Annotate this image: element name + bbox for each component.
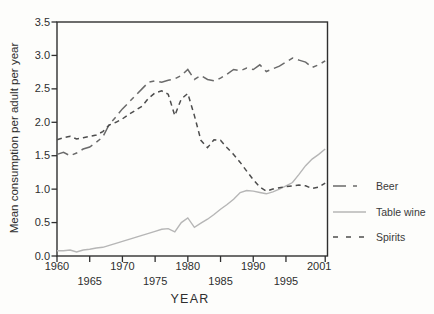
table-wine-line-sample-icon [332,206,368,218]
legend-label-table-wine: Table wine [376,206,426,218]
legend-label-spirits: Spirits [376,231,405,243]
y-tick-label: 2.0 [18,116,50,129]
x-tick-label: 1985 [201,275,241,288]
y-tick-label: 3.0 [18,49,50,62]
x-axis-title: YEAR [140,292,240,306]
y-axis-ticks [52,22,58,256]
y-tick-label: 2.5 [18,82,50,95]
plot-frame [57,22,328,256]
legend-item-spirits: Spirits [332,231,405,243]
spirits-line-sample-icon [332,231,368,243]
x-tick-label: 1990 [233,260,273,273]
y-tick-label: 1.0 [18,183,50,196]
series-line-table-wine [57,149,325,252]
y-axis-title: Mean consumption per adult per year [8,20,20,256]
legend-item-beer: Beer [332,180,398,192]
x-tick-label: 1970 [102,260,142,273]
legend-label-beer: Beer [376,180,398,192]
beer-line-sample-icon [332,180,368,192]
y-tick-label: 3.5 [18,16,50,29]
x-tick-label: 1965 [70,275,110,288]
x-tick-label: 1995 [266,275,306,288]
x-tick-label: 1980 [168,260,208,273]
legend-item-table-wine: Table wine [332,206,426,218]
y-tick-label: 1.5 [18,149,50,162]
x-tick-label: 1960 [37,260,77,273]
x-tick-label: 2001 [299,260,339,273]
consumption-line-chart: 0.00.51.01.52.02.53.03.5 196019651970197… [0,0,434,314]
series-lines [57,58,325,252]
y-tick-label: 0.5 [18,216,50,229]
x-tick-label: 1975 [135,275,175,288]
